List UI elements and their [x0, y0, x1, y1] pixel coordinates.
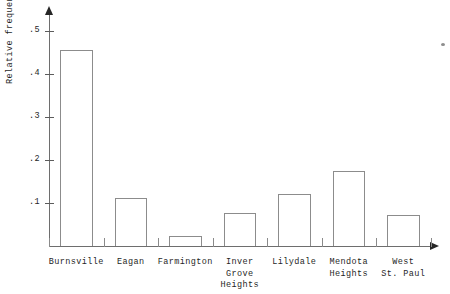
x-axis-category-label: West St. Paul: [364, 257, 443, 280]
y-axis-tick-label: .3: [29, 111, 40, 121]
x-axis-tick: [104, 238, 105, 247]
bar: [387, 215, 420, 246]
bar: [333, 171, 366, 246]
y-axis-tick: [45, 74, 54, 75]
x-axis-tick: [431, 238, 432, 247]
y-axis-tick: [45, 203, 54, 204]
x-axis-tick: [267, 238, 268, 247]
bar: [115, 198, 148, 246]
x-axis-tick: [322, 238, 323, 247]
bar-chart: Relative frequency .5.4.3.2.1 Burnsville…: [0, 0, 450, 294]
x-axis-tick: [213, 238, 214, 247]
x-axis-tick: [49, 238, 50, 247]
y-axis-tick-label: .4: [29, 68, 40, 78]
bar: [60, 50, 93, 246]
x-axis-tick: [376, 238, 377, 247]
bar: [169, 236, 202, 246]
x-axis-line: [49, 246, 432, 247]
y-axis-tick-label: .2: [29, 154, 40, 164]
y-axis-arrow-icon: [45, 6, 53, 15]
x-axis-tick: [158, 238, 159, 247]
bar: [278, 194, 311, 246]
y-axis-label: Relative frequency: [5, 0, 19, 84]
y-axis-tick: [45, 117, 54, 118]
y-axis-tick: [45, 160, 54, 161]
scan-artifact-speck: [441, 43, 445, 46]
y-axis-line: [49, 14, 50, 247]
y-axis-tick-label: .1: [29, 197, 40, 207]
y-axis-tick: [45, 31, 54, 32]
bar: [224, 213, 257, 246]
y-axis-tick-label: .5: [29, 25, 40, 35]
